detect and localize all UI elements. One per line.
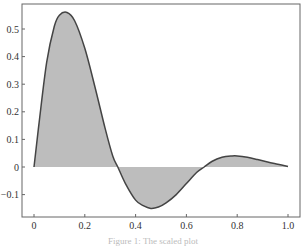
area-fill [34, 12, 288, 208]
x-tick-label: 0.4 [129, 220, 142, 231]
y-tick-label: 0 [14, 162, 19, 173]
y-tick-label: 0.4 [7, 51, 20, 62]
x-tick-label: 0.2 [79, 220, 92, 231]
y-tick-label: −0.1 [1, 189, 19, 200]
area-fill-path [34, 12, 288, 208]
y-tick-label: 0.3 [7, 79, 20, 90]
figure-caption: Figure 1: The scaled plot [0, 236, 306, 246]
x-tick-label: 0 [32, 220, 37, 231]
chart: −0.100.10.20.30.40.5 00.20.40.60.81.0 [0, 0, 306, 249]
y-tick-label: 0.2 [7, 106, 20, 117]
x-tick-label: 0.6 [180, 220, 193, 231]
x-tick-label: 0.8 [231, 220, 244, 231]
y-tick-label: 0.1 [7, 134, 20, 145]
y-axis-ticks: −0.100.10.20.30.40.5 [1, 24, 25, 201]
y-tick-label: 0.5 [7, 24, 20, 35]
x-tick-label: 1.0 [282, 220, 295, 231]
